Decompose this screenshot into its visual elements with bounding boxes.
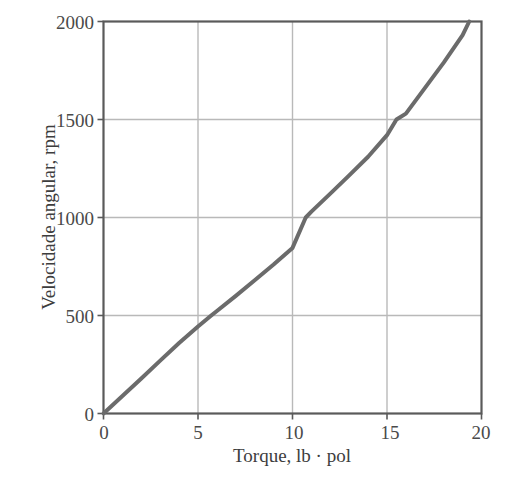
y-axis-title: Velocidade angular, rpm [34,21,64,413]
x-tick-label-5: 5 [193,423,203,442]
chart-figure: 2000 1500 1000 500 0 0 5 10 15 20 Torque… [0,0,506,481]
x-tick-label-0: 0 [99,423,109,442]
x-tick-label-20: 20 [472,423,491,442]
x-axis-title: Torque, lb · pol [103,446,481,465]
gridlines-group [104,22,482,414]
x-tick-label-15: 15 [381,423,400,442]
tick-marks-group [98,22,482,420]
x-tick-label-10: 10 [285,423,304,442]
